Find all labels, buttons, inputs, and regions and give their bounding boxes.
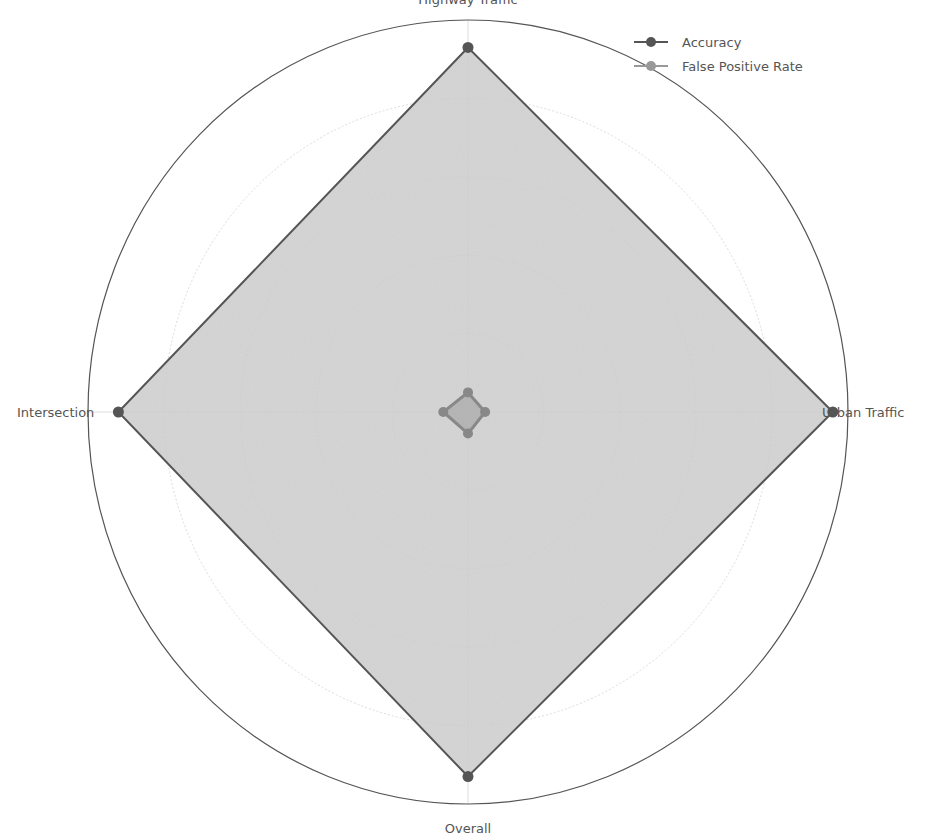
axis-label-urban-traffic: Urban Traffic bbox=[822, 405, 905, 420]
axis-label-overall: Overall bbox=[445, 821, 491, 836]
axis-label-intersection: Intersection bbox=[17, 405, 94, 420]
data-point-marker bbox=[463, 771, 474, 782]
data-point-marker bbox=[480, 407, 490, 417]
legend: Accuracy False Positive Rate bbox=[634, 30, 803, 78]
legend-marker-fpr-icon bbox=[634, 59, 668, 73]
data-point-marker bbox=[113, 407, 124, 418]
radar-chart: Highway Traffic Urban Traffic Overall In… bbox=[0, 0, 930, 839]
data-point-marker bbox=[463, 429, 473, 439]
legend-marker-accuracy-icon bbox=[634, 35, 668, 49]
legend-item-false-positive-rate: False Positive Rate bbox=[634, 54, 803, 78]
series-layer bbox=[113, 42, 838, 782]
data-point-marker bbox=[463, 42, 474, 53]
legend-label-false-positive-rate: False Positive Rate bbox=[682, 59, 803, 74]
legend-label-accuracy: Accuracy bbox=[682, 35, 741, 50]
data-point-marker bbox=[438, 407, 448, 417]
data-point-marker bbox=[463, 387, 473, 397]
axis-label-highway-traffic: Highway Traffic bbox=[418, 0, 517, 7]
legend-item-accuracy: Accuracy bbox=[634, 30, 803, 54]
